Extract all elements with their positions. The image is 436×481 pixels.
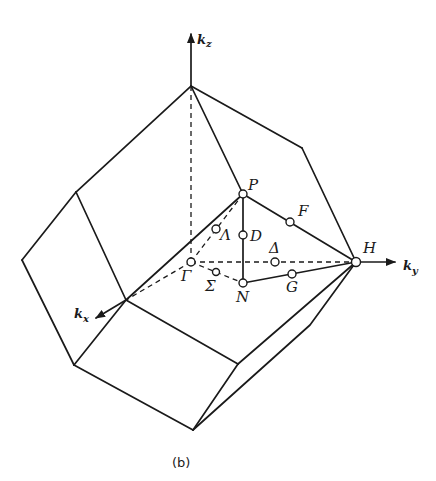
- label-P: P: [247, 176, 259, 194]
- point-N: [239, 279, 247, 287]
- label-F: F: [297, 202, 309, 220]
- brillouin-zone-diagram: kz ky kx P F H D Λ Δ Γ Σ N G (b): [0, 0, 436, 481]
- label-Lambda: Λ: [218, 226, 231, 244]
- ky-axis-label: ky: [403, 258, 419, 276]
- label-H: H: [362, 239, 377, 257]
- kz-axis-label: kz: [197, 32, 212, 49]
- label-Gamma: Γ: [180, 267, 192, 285]
- kx-axis-label: kx: [74, 306, 90, 324]
- label-Delta: Δ: [268, 239, 280, 257]
- label-D: D: [249, 227, 262, 245]
- point-F: [286, 218, 294, 226]
- point-H: [352, 258, 361, 267]
- point-Delta: [271, 258, 279, 266]
- label-N: N: [235, 288, 250, 306]
- point-Lambda: [212, 225, 220, 233]
- point-P: [239, 190, 247, 198]
- point-Sigma: [213, 269, 220, 276]
- axes: [96, 34, 395, 318]
- point-G: [288, 270, 296, 278]
- label-G: G: [286, 278, 298, 296]
- point-Gamma: [187, 258, 195, 266]
- kx-axis-arrow: [96, 300, 126, 318]
- label-Sigma: Σ: [204, 277, 216, 295]
- figure-caption: (b): [172, 455, 190, 470]
- point-D: [239, 231, 247, 239]
